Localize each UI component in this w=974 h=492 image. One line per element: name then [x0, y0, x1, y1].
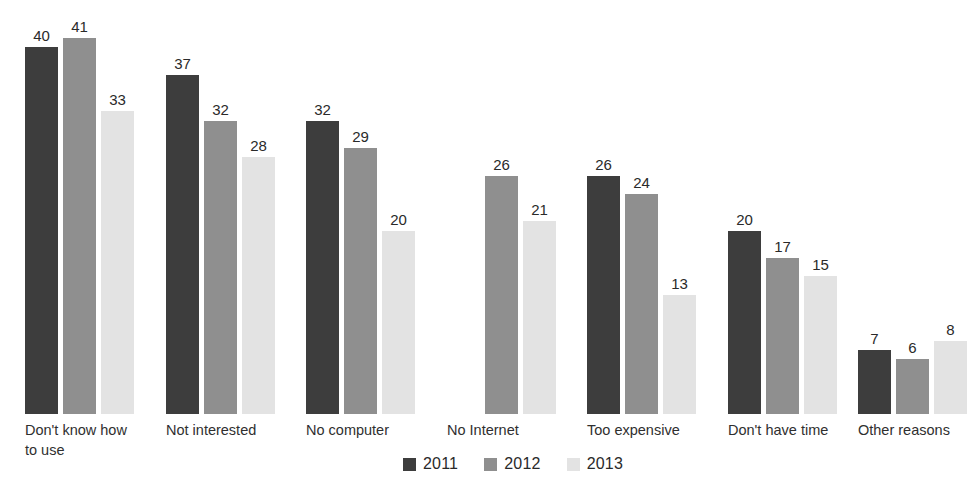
category-label: Don't have time — [728, 420, 828, 440]
bar-value-label: 21 — [523, 201, 556, 219]
bar-value-label: 6 — [896, 339, 929, 357]
bar[interactable] — [166, 75, 199, 414]
bar-chart: 4041333732283229202621262413201715768 Do… — [0, 0, 974, 492]
bar[interactable] — [858, 350, 891, 414]
bar[interactable] — [523, 221, 556, 414]
legend-label: 2012 — [504, 455, 540, 473]
legend-swatch-icon — [484, 458, 497, 471]
bar[interactable] — [728, 231, 761, 414]
bar-group: 404133 — [25, 0, 139, 414]
bar-value-label: 26 — [587, 156, 620, 174]
bar[interactable] — [587, 176, 620, 414]
bar[interactable] — [242, 157, 275, 414]
category-label: No computer — [306, 420, 389, 440]
bar-value-label: 15 — [804, 256, 837, 274]
bar-value-label: 32 — [204, 101, 237, 119]
legend-item[interactable]: 2012 — [484, 455, 540, 473]
bar[interactable] — [485, 176, 518, 414]
legend-swatch-icon — [567, 458, 580, 471]
chart-legend: 201120122013 — [403, 452, 623, 476]
legend-item[interactable]: 2011 — [403, 455, 458, 473]
bar[interactable] — [204, 121, 237, 414]
bar-value-label: 32 — [306, 101, 339, 119]
bar-value-label: 28 — [242, 137, 275, 155]
bar-value-label: 13 — [663, 275, 696, 293]
bar-value-label: 8 — [934, 321, 967, 339]
bar[interactable] — [766, 258, 799, 414]
bar-value-label: 7 — [858, 330, 891, 348]
bar[interactable] — [25, 47, 58, 414]
bar[interactable] — [306, 121, 339, 414]
legend-item[interactable]: 2013 — [567, 455, 623, 473]
bar-value-label: 17 — [766, 238, 799, 256]
bar[interactable] — [101, 111, 134, 414]
bar-group: 2621 — [447, 0, 561, 414]
bar-value-label: 37 — [166, 55, 199, 73]
bar-value-label: 24 — [625, 174, 658, 192]
bar-value-label: 20 — [728, 211, 761, 229]
bar-group: 201715 — [728, 0, 842, 414]
bar-value-label: 40 — [25, 27, 58, 45]
bar-value-label: 41 — [63, 18, 96, 36]
bar-value-label: 26 — [485, 156, 518, 174]
category-label: Don't know how to use — [25, 420, 127, 460]
bar[interactable] — [344, 148, 377, 414]
legend-label: 2011 — [423, 455, 458, 473]
category-label: Too expensive — [587, 420, 680, 440]
bar[interactable] — [896, 359, 929, 414]
bar[interactable] — [382, 231, 415, 414]
bar-group: 373228 — [166, 0, 280, 414]
category-label: Other reasons — [858, 420, 950, 440]
bar-group: 768 — [858, 0, 972, 414]
bar[interactable] — [804, 276, 837, 414]
bar[interactable] — [625, 194, 658, 414]
plot-area: 4041333732283229202621262413201715768 — [0, 0, 974, 414]
legend-swatch-icon — [403, 458, 416, 471]
bar[interactable] — [63, 38, 96, 414]
bar[interactable] — [663, 295, 696, 414]
bar-value-label: 29 — [344, 128, 377, 146]
bar-group: 322920 — [306, 0, 420, 414]
bar[interactable] — [934, 341, 967, 414]
legend-label: 2013 — [587, 455, 623, 473]
bar-value-label: 20 — [382, 211, 415, 229]
bar-group: 262413 — [587, 0, 701, 414]
category-label: Not interested — [166, 420, 256, 440]
bar-value-label: 33 — [101, 91, 134, 109]
category-label: No Internet — [447, 420, 519, 440]
